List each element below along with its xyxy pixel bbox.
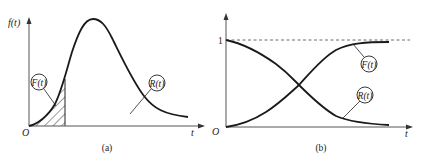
callout-leader-F-a <box>44 89 56 106</box>
caption-a: (a) <box>102 143 113 154</box>
reliability-figure: F(t) R(t) f(t) O t (a) 1 <box>0 0 422 167</box>
callout-label-F-b: F(t) <box>361 60 377 71</box>
panel-a: F(t) R(t) f(t) O t (a) <box>8 17 205 154</box>
y-axis-arrow-icon <box>224 13 229 20</box>
origin-label-b: O <box>212 126 219 137</box>
y-tick-label-one: 1 <box>218 36 223 46</box>
callout-label-R-b: R(t) <box>357 91 373 102</box>
figure-svg: F(t) R(t) f(t) O t (a) 1 <box>0 0 422 167</box>
callout-label-F-a: F(t) <box>31 78 47 89</box>
panel-b: 1 F(t) R(t) O t (b) <box>212 13 413 154</box>
reliability-curve-R <box>226 40 389 125</box>
callout-leader-R-b <box>342 101 360 119</box>
x-axis-label-b: t <box>405 128 408 139</box>
caption-b: (b) <box>315 143 326 154</box>
callout-leader-F-b <box>353 44 364 57</box>
y-axis-arrow-icon <box>27 17 32 24</box>
x-axis-label-a: t <box>191 127 194 138</box>
origin-label-a: O <box>22 127 29 138</box>
failure-curve-F <box>226 42 389 127</box>
x-axis-arrow-icon <box>198 124 205 129</box>
y-axis-label-a: f(t) <box>8 17 21 29</box>
callout-label-R-a: R(t) <box>149 79 165 90</box>
